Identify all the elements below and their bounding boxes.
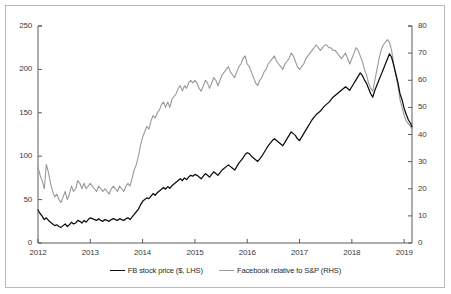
x-axis-tick-label: 2012: [18, 248, 58, 257]
y-axis-left-tick-label: 50: [6, 195, 32, 204]
y-axis-left-tick-label: 0: [6, 238, 32, 247]
series-line-facebook-relative: [38, 40, 412, 203]
y-axis-right-tick-label: 10: [418, 211, 444, 220]
grey-line-swatch: [219, 270, 234, 271]
x-axis-tick-label: 2016: [227, 248, 267, 257]
y-axis-right-tick-label: 60: [418, 75, 444, 84]
legend-label-fb-stock-price: FB stock price ($, LHS): [128, 266, 203, 275]
chart-legend: FB stock price ($, LHS) Facebook relativ…: [0, 266, 451, 275]
x-axis-tick-label: 2017: [280, 248, 320, 257]
y-axis-left-tick-label: 150: [6, 108, 32, 117]
legend-item-fb-stock-price[interactable]: FB stock price ($, LHS): [110, 266, 203, 275]
x-axis-tick-label: 2014: [123, 248, 163, 257]
series-line-fb-stock-price: [38, 54, 412, 228]
y-axis-right-tick-label: 80: [418, 21, 444, 30]
y-axis-right-tick-label: 50: [418, 102, 444, 111]
x-axis-tick-label: 2015: [175, 248, 215, 257]
y-axis-right-tick-label: 0: [418, 238, 444, 247]
y-axis-left-tick-label: 250: [6, 21, 32, 30]
x-axis-tick-label: 2013: [70, 248, 110, 257]
x-axis-tick-label: 2018: [332, 248, 372, 257]
y-axis-left-tick-label: 200: [6, 64, 32, 73]
x-axis-tick-label: 2019: [384, 248, 424, 257]
y-axis-right-tick-label: 40: [418, 130, 444, 139]
y-axis-right-tick-label: 30: [418, 157, 444, 166]
y-axis-right-tick-label: 20: [418, 184, 444, 193]
y-axis-right-tick-label: 70: [418, 48, 444, 57]
legend-item-facebook-relative[interactable]: Facebook relative to S&P (RHS): [219, 266, 341, 275]
y-axis-left-tick-label: 100: [6, 151, 32, 160]
black-line-swatch: [110, 270, 125, 271]
legend-label-facebook-relative: Facebook relative to S&P (RHS): [237, 266, 341, 275]
